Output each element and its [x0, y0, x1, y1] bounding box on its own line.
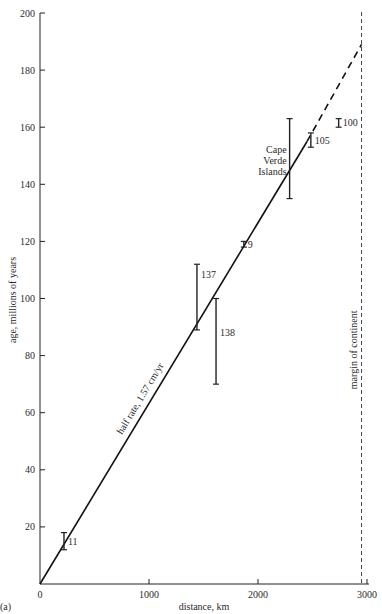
error-bar-label: 100 — [343, 117, 358, 128]
x-tick-label: 3000 — [357, 589, 377, 600]
fit-line — [40, 44, 362, 584]
error-bar-label: 138 — [220, 327, 235, 338]
error-bar: 11 — [61, 533, 78, 550]
y-tick-label: 160 — [20, 122, 35, 133]
y-tick-label: 40 — [25, 464, 35, 475]
y-tick-label: 200 — [20, 8, 35, 19]
y-tick-label: 140 — [20, 179, 35, 190]
x-tick-label: 2000 — [248, 589, 268, 600]
x-tick-label: 1000 — [139, 589, 159, 600]
margin-label: margin of continent — [348, 310, 359, 389]
axes: 204060801001201401601802000100020003000 — [20, 8, 377, 601]
y-tick-label: 100 — [20, 293, 35, 304]
x-tick-label: 0 — [38, 589, 43, 600]
error-bar: 100 — [336, 117, 358, 128]
error-bar: 138 — [213, 299, 235, 385]
error-bar: CapeVerdeIslands — [258, 119, 292, 199]
error-bar-label: 11 — [68, 536, 78, 547]
error-bar-label: 137 — [201, 269, 216, 280]
fit-line-solid — [40, 141, 307, 584]
error-bar-label: Cape — [266, 144, 287, 155]
error-bars: 111371389CapeVerdeIslands105100 — [61, 117, 358, 549]
age-distance-chart: 204060801001201401601802000100020003000 … — [0, 0, 382, 614]
error-bar: 105 — [308, 133, 330, 147]
y-tick-label: 180 — [20, 65, 35, 76]
y-tick-label: 120 — [20, 236, 35, 247]
panel-label: (a) — [0, 601, 11, 613]
error-bar-label: Islands — [258, 166, 286, 177]
y-tick-label: 80 — [25, 350, 35, 361]
x-axis-title: distance, km — [179, 601, 230, 612]
fit-line-label: half rate, 1.57 cm/yr — [114, 360, 166, 436]
error-bar-label: 105 — [315, 135, 330, 146]
y-tick-label: 60 — [25, 407, 35, 418]
y-axis-title: age, millions of years — [7, 257, 18, 343]
y-tick-label: 20 — [25, 521, 35, 532]
error-bar-label: Verde — [263, 155, 287, 166]
error-bar-label: 9 — [248, 239, 253, 250]
